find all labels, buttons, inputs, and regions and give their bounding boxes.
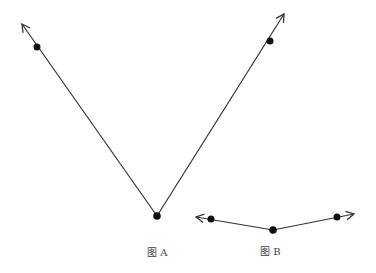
vertex-dot (269, 226, 277, 234)
vertex-dot (153, 212, 161, 220)
ray-line (273, 214, 354, 230)
point-dot (334, 214, 341, 221)
point-dot (34, 44, 41, 51)
point-dot (267, 38, 274, 45)
angle-figures: 图 A 图 B (0, 0, 376, 273)
point-dot (208, 216, 215, 223)
diagram-canvas (0, 0, 376, 273)
ray-line (157, 14, 284, 216)
caption-figure-a: 图 A (147, 244, 167, 259)
caption-figure-b: 图 B (260, 243, 281, 258)
ray-line (22, 24, 157, 216)
arrowhead-icon (276, 14, 284, 23)
